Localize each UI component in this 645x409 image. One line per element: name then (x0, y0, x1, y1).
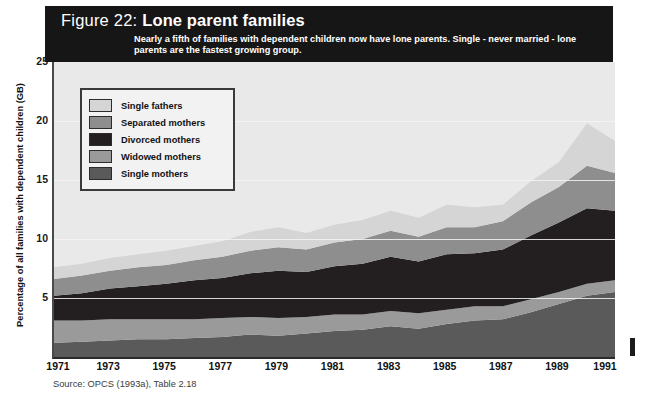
x-tick-label: 1985 (433, 360, 456, 372)
y-tick-label: 5 (4, 291, 48, 303)
figure-number: Figure 22: (61, 11, 137, 29)
x-tick-label: 1979 (265, 360, 288, 372)
y-tick-label: 25 (4, 55, 48, 67)
x-tick-label: 1987 (489, 360, 512, 372)
gridline-5 (54, 298, 615, 299)
x-tick-label: 1977 (209, 360, 232, 372)
legend-swatch-icon (89, 116, 112, 129)
figure-subtitle: Nearly a fifth of families with dependen… (134, 34, 604, 56)
page-edge-mark (630, 338, 635, 356)
x-tick-label: 1971 (46, 360, 69, 372)
x-axis: 1971197319751977197919811983198519871989… (52, 360, 613, 376)
legend-swatch-icon (89, 167, 112, 180)
legend-item[interactable]: Divorced mothers (89, 131, 225, 148)
x-tick-label: 1983 (377, 360, 400, 372)
x-tick-label: 1991 (593, 360, 616, 372)
y-tick-label: 15 (4, 173, 48, 185)
legend-swatch-icon (89, 150, 112, 163)
legend-item-label: Widowed mothers (121, 152, 201, 162)
legend-item-label: Separated mothers (121, 118, 205, 128)
gridline-10 (54, 239, 615, 240)
figure-title: Lone parent families (142, 11, 304, 29)
x-tick-label: 1989 (545, 360, 568, 372)
x-tick-label: 1981 (321, 360, 344, 372)
figure-title-row: Figure 22:Lone parent families (61, 11, 305, 30)
x-tick-label: 1973 (96, 360, 119, 372)
legend-swatch-icon (89, 99, 112, 112)
legend-swatch-icon (89, 133, 112, 146)
source-note: Source: OPCS (1993a), Table 2.18 (53, 379, 197, 389)
legend-item-label: Single fathers (121, 101, 182, 111)
x-tick-label: 1975 (153, 360, 176, 372)
legend-item[interactable]: Widowed mothers (89, 148, 225, 165)
legend-item[interactable]: Separated mothers (89, 114, 225, 131)
legend-item[interactable]: Single fathers (89, 97, 225, 114)
y-axis-label: Percentage of all families with dependen… (15, 80, 25, 330)
y-tick-label: 10 (4, 232, 48, 244)
figure-header-band: Figure 22:Lone parent families Nearly a … (45, 6, 613, 62)
y-tick-label: 20 (4, 114, 48, 126)
figure-panel: Figure 22:Lone parent families Nearly a … (0, 0, 645, 409)
legend-item-label: Divorced mothers (121, 135, 200, 145)
chart-legend: Single fathersSeparated mothersDivorced … (80, 88, 235, 191)
legend-item[interactable]: Single mothers (89, 165, 225, 182)
legend-item-label: Single mothers (121, 169, 188, 179)
